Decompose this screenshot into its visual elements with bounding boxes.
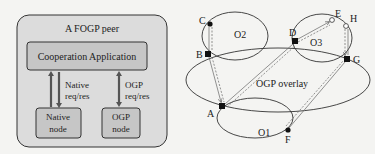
native-node-label-2: node xyxy=(49,124,67,134)
overlay-labels: C B A D E H G F O2 O3 O1 OGP overlay xyxy=(196,8,360,145)
label-d: D xyxy=(289,27,296,38)
fogp-peer-diagram: A FOGP peer Cooperation Application Nati… xyxy=(17,15,167,147)
node-a xyxy=(219,103,225,109)
label-c: C xyxy=(199,15,206,26)
cooperation-application-label: Cooperation Application xyxy=(38,51,137,62)
label-b: B xyxy=(196,49,203,60)
node-c xyxy=(207,21,212,26)
overlay-nodes xyxy=(205,18,350,133)
native-link-label-2: req/res xyxy=(65,91,90,101)
ogp-node-label-1: OGP xyxy=(112,112,130,122)
label-f: F xyxy=(285,134,291,145)
label-e: E xyxy=(335,8,341,19)
node-d xyxy=(292,38,298,44)
native-node-label-1: Native xyxy=(46,112,70,122)
ogp-link-label-1: OGP xyxy=(125,80,143,90)
label-a: A xyxy=(207,108,215,119)
node-g xyxy=(344,56,350,62)
label-o2: O2 xyxy=(234,29,246,40)
native-link-label-1: Native xyxy=(65,80,89,90)
o1-cluster-ellipse xyxy=(217,98,293,138)
node-b xyxy=(205,51,211,57)
fogp-diagram: A FOGP peer Cooperation Application Nati… xyxy=(0,0,375,154)
node-e xyxy=(330,18,335,23)
node-h xyxy=(344,24,349,29)
ogp-overlay-diagram xyxy=(186,12,370,138)
ogp-node-label-2: node xyxy=(112,124,130,134)
label-h: H xyxy=(350,13,357,24)
label-o1: O1 xyxy=(258,127,270,138)
label-g: G xyxy=(353,54,360,65)
ogp-link-label-2: req/res xyxy=(125,91,150,101)
label-o3: O3 xyxy=(310,37,322,48)
peer-title: A FOGP peer xyxy=(65,23,120,34)
label-ogp-overlay: OGP overlay xyxy=(256,78,308,89)
node-f xyxy=(285,127,290,132)
